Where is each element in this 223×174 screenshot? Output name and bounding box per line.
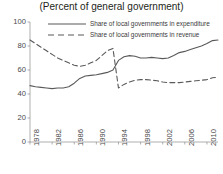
- chart-plot-area: [0, 0, 223, 174]
- chart-figure: (Percent of general government) Share of…: [0, 0, 223, 174]
- series-line-revenue: [30, 40, 218, 88]
